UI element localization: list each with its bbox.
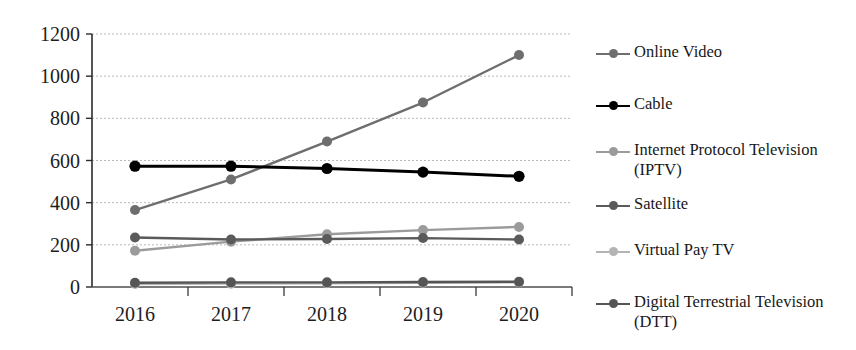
series-marker xyxy=(130,278,140,288)
x-tick-label: 2018 xyxy=(307,303,347,325)
x-tick-label: 2020 xyxy=(499,303,539,325)
legend-item[interactable]: Internet Protocol Television (IPTV) xyxy=(596,140,854,180)
series-marker xyxy=(130,205,140,215)
series-marker xyxy=(417,166,428,177)
series-marker xyxy=(322,234,332,244)
legend-dot xyxy=(609,299,618,308)
series-marker xyxy=(514,222,524,232)
chart-container: 120010008006004002000 201620172018201920… xyxy=(0,0,856,350)
legend-marker-icon xyxy=(596,144,630,160)
legend-dot xyxy=(609,201,618,210)
series-line xyxy=(135,55,519,210)
legend-item[interactable]: Online Video xyxy=(596,42,854,62)
legend-marker-icon xyxy=(596,244,630,260)
legend-item[interactable]: Digital Terrestrial Television (DTT) xyxy=(596,292,854,332)
x-axis-ticks xyxy=(188,287,572,296)
series-marker xyxy=(130,246,140,256)
legend-marker-icon xyxy=(596,98,630,114)
legend-marker-icon xyxy=(596,46,630,62)
legend-item[interactable]: Virtual Pay TV xyxy=(596,240,854,260)
legend-dot xyxy=(609,101,618,110)
y-tick-label: 400 xyxy=(50,192,80,214)
legend-dot xyxy=(609,147,618,156)
x-axis-tick-labels: 20162017201820192020 xyxy=(115,303,539,325)
legend-item-label: Virtual Pay TV xyxy=(630,240,734,260)
series-marker xyxy=(513,171,524,182)
series-marker xyxy=(418,233,428,243)
series-marker xyxy=(130,232,140,242)
series-marker xyxy=(226,174,236,184)
x-tick-label: 2017 xyxy=(211,303,251,325)
series-marker xyxy=(514,235,524,245)
legend-marker-icon xyxy=(596,198,630,214)
series-marker xyxy=(418,98,428,108)
series-marker xyxy=(226,235,236,245)
series-marker xyxy=(225,161,236,172)
series-marker xyxy=(322,137,332,147)
series-markers xyxy=(129,50,524,289)
legend-item[interactable]: Satellite xyxy=(596,194,854,214)
y-axis-tick-labels: 120010008006004002000 xyxy=(40,23,80,298)
legend-item-label: Satellite xyxy=(630,194,688,214)
y-tick-label: 1000 xyxy=(40,65,80,87)
series-marker xyxy=(321,163,332,174)
series-marker xyxy=(514,277,524,287)
legend-item[interactable]: Cable xyxy=(596,94,854,114)
y-tick-label: 600 xyxy=(50,150,80,172)
y-tick-label: 200 xyxy=(50,234,80,256)
legend-item-label: Internet Protocol Television (IPTV) xyxy=(630,140,818,180)
y-tick-label: 0 xyxy=(70,276,80,298)
series-marker xyxy=(418,277,428,287)
legend-item-label: Online Video xyxy=(630,42,722,62)
line-chart-figure: 120010008006004002000 201620172018201920… xyxy=(0,0,856,350)
legend-item-label: Cable xyxy=(630,94,673,114)
series-marker xyxy=(226,277,236,287)
legend-marker-icon xyxy=(596,296,630,312)
legend-dot xyxy=(609,49,618,58)
series-marker xyxy=(514,50,524,60)
chart-legend: Online VideoCableInternet Protocol Telev… xyxy=(596,22,854,302)
legend-dot xyxy=(609,247,618,256)
series-marker xyxy=(129,161,140,172)
y-axis-ticks xyxy=(86,34,92,287)
legend-item-label: Digital Terrestrial Television (DTT) xyxy=(630,292,824,332)
x-tick-label: 2019 xyxy=(403,303,443,325)
y-tick-label: 800 xyxy=(50,107,80,129)
x-tick-label: 2016 xyxy=(115,303,155,325)
series-marker xyxy=(322,277,332,287)
y-tick-label: 1200 xyxy=(40,23,80,45)
